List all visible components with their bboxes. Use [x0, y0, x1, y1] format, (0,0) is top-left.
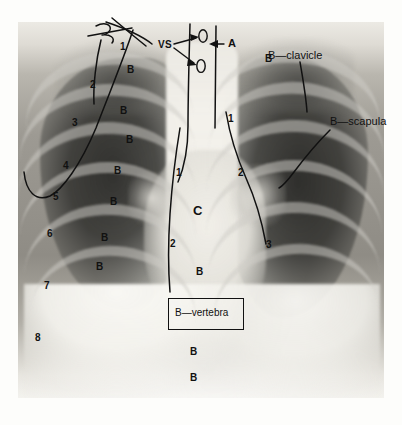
label-a: A [228, 38, 236, 49]
label-scapula: B—scapula [330, 116, 386, 127]
label-c: C [193, 204, 202, 217]
bone-mark-b: B [127, 65, 134, 75]
bone-mark-b: B [190, 347, 197, 357]
cardiac-number-center: 1 [176, 168, 182, 178]
rib-number-left: 6 [47, 229, 53, 239]
rib-number-left: 3 [72, 118, 78, 128]
label-clavicle: B—clavicle [268, 50, 322, 61]
rib-number-left: 8 [35, 333, 41, 343]
label-vertebra: B—vertebra [175, 308, 228, 318]
cardiac-number-right: 2 [238, 168, 244, 178]
bone-mark-b: B [114, 166, 121, 176]
bone-mark-b: B [196, 267, 203, 277]
cardiac-number-right: 1 [228, 114, 234, 124]
rib-number-left: 2 [90, 80, 96, 90]
cardiac-number-right: 3 [266, 240, 272, 250]
bone-mark-b: B [265, 54, 272, 64]
label-vs: VS [158, 40, 172, 50]
bone-mark-b: B [190, 373, 197, 383]
bone-mark-b: B [96, 262, 103, 272]
cardiac-number-center: 2 [170, 239, 176, 249]
vertebra-callout-box: B—vertebra [168, 298, 244, 330]
bone-mark-b: B [110, 197, 117, 207]
figure-root: B—clavicle B—scapula B—vertebra VS A C B… [0, 0, 402, 425]
bone-mark-b: B [126, 135, 133, 145]
rib-number-left: 7 [44, 281, 50, 291]
rib-number-left: 5 [53, 192, 59, 202]
rib-number-left: 1 [120, 42, 126, 52]
rib-number-left: 4 [63, 161, 69, 171]
bone-mark-b: B [120, 106, 127, 116]
bone-mark-b: B [101, 233, 108, 243]
